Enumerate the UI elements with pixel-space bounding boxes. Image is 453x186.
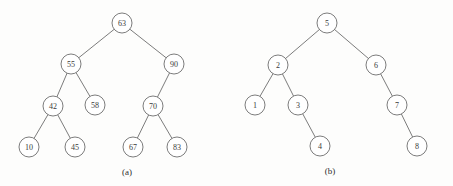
tree-node: 10 <box>19 137 39 157</box>
node-label: 4 <box>318 142 322 151</box>
node-label: 10 <box>25 143 33 152</box>
node-label: 70 <box>149 102 157 111</box>
node-label: 8 <box>415 142 419 151</box>
tree-node: 55 <box>61 54 81 74</box>
tree-edge <box>282 74 293 96</box>
tree-edge <box>57 73 67 97</box>
tree-node: 2 <box>268 55 288 75</box>
tree-node: 7 <box>387 95 407 115</box>
edges-layer <box>34 29 413 138</box>
node-label: 42 <box>49 102 57 111</box>
binary-tree-figure: 6355904258701045678352613748 (a)(b) <box>0 0 453 186</box>
tree-edge <box>137 115 148 138</box>
node-label: 58 <box>91 101 99 110</box>
nodes-layer: 6355904258701045678352613748 <box>19 13 427 157</box>
tree-edge <box>286 30 320 59</box>
subfigure-caption: (a) <box>122 167 132 177</box>
node-label: 2 <box>276 61 280 70</box>
node-label: 67 <box>129 143 137 152</box>
tree-node: 90 <box>164 54 184 74</box>
tree-node: 58 <box>85 95 105 115</box>
tree-node: 45 <box>65 137 85 157</box>
tree-edge <box>335 30 369 59</box>
tree-node: 1 <box>245 95 265 115</box>
tree-node: 8 <box>407 136 427 156</box>
tree-edge <box>130 29 166 58</box>
node-label: 7 <box>395 101 399 110</box>
tree-node: 67 <box>123 137 143 157</box>
tree-node: 4 <box>310 136 330 156</box>
node-label: 5 <box>325 19 329 28</box>
tree-edge <box>303 114 316 137</box>
tree-edge <box>34 115 48 139</box>
node-label: 6 <box>374 61 378 70</box>
tree-edge <box>157 73 169 97</box>
node-label: 3 <box>296 101 300 110</box>
tree-edge <box>76 73 90 97</box>
tree-diagram-canvas: 6355904258701045678352613748 (a)(b) <box>0 0 453 186</box>
tree-edge <box>381 74 393 96</box>
tree-node: 5 <box>317 13 337 33</box>
tree-node: 6 <box>366 55 386 75</box>
subfigure-caption: (b) <box>325 166 336 176</box>
captions-layer: (a)(b) <box>122 166 335 177</box>
tree-edge <box>58 115 71 138</box>
tree-edge <box>401 114 412 137</box>
tree-node: 70 <box>143 96 163 116</box>
tree-node: 42 <box>43 96 63 116</box>
tree-node: 63 <box>112 13 132 33</box>
node-label: 83 <box>173 143 181 152</box>
tree-node: 3 <box>288 95 308 115</box>
tree-edge <box>79 29 114 57</box>
node-label: 63 <box>118 19 126 28</box>
node-label: 55 <box>67 60 75 69</box>
node-label: 1 <box>253 101 257 110</box>
tree-node: 83 <box>167 137 187 157</box>
node-label: 90 <box>170 60 178 69</box>
node-label: 45 <box>71 143 79 152</box>
tree-edge <box>260 74 273 97</box>
tree-edge <box>158 115 172 139</box>
